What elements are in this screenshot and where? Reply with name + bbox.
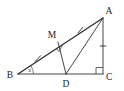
segment-MD — [58, 42, 66, 74]
vertex-label-B: B — [7, 70, 13, 80]
geometry-figure-container: A B C D M x — [0, 0, 124, 91]
vertex-label-D: D — [63, 79, 70, 89]
angle-label-B: x — [27, 66, 31, 73]
vertex-label-M: M — [48, 30, 57, 40]
geometry-diagram: A B C D M x — [0, 0, 124, 91]
right-angle-marker-C — [96, 68, 103, 75]
vertex-label-C: C — [106, 72, 112, 82]
segment-AD — [66, 18, 103, 74]
vertex-label-A: A — [106, 6, 113, 16]
angle-arc-B — [31, 66, 34, 74]
